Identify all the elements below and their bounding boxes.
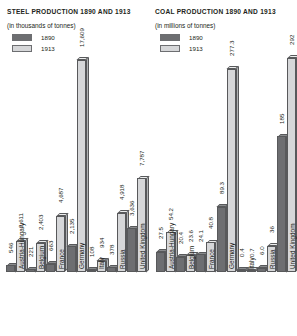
bar-germany-1913: [227, 69, 236, 272]
category-label: Austria-Hungary: [169, 222, 175, 268]
value-label: 3,636: [129, 200, 135, 215]
value-label: 89.3: [219, 182, 225, 194]
bar-face: [67, 246, 76, 272]
category-label: France: [59, 249, 65, 269]
category-label: Austria-Hungary: [19, 222, 25, 268]
category-label: Germany: [229, 242, 235, 268]
bar-face: [176, 257, 185, 272]
bar-germany-1890: [217, 207, 226, 272]
category-label: Russia: [120, 249, 126, 269]
bar-face: [156, 252, 165, 272]
category-label: France: [209, 249, 215, 269]
value-label: 7,787: [139, 150, 145, 165]
bar-russia-1890: [107, 267, 116, 272]
value-label: 54.2: [168, 208, 174, 220]
bar-face: [277, 136, 286, 272]
bar-face: [107, 267, 116, 272]
coal-production-panel: COAL PRODUCTION 1890 AND 1913 (in millio…: [148, 0, 297, 336]
plot-area-steel: 5462,611Austria-Hungary2212,403Belgium66…: [0, 0, 148, 336]
bar-side: [86, 57, 89, 272]
value-label: 23.6: [188, 230, 194, 242]
value-label: 20.4: [178, 232, 184, 244]
bar-austria-hungary-1890: [156, 252, 165, 272]
value-label: 663: [48, 241, 54, 251]
bar-side: [236, 66, 239, 272]
bar-belgium-1890: [176, 257, 185, 272]
category-label: Italy: [249, 257, 255, 269]
category-label: Italy: [99, 257, 105, 269]
category-label: Belgium: [189, 246, 195, 269]
value-label: 0.4: [239, 249, 245, 258]
bar-face: [6, 265, 15, 272]
bar-france-1890: [196, 254, 205, 272]
bar-face: [26, 269, 35, 272]
bar-group: 185292United Kingdom: [277, 271, 297, 272]
value-label: 378: [109, 244, 115, 254]
value-label: 4,918: [119, 185, 125, 200]
value-label: 292: [289, 35, 295, 45]
bar-face: [46, 264, 55, 272]
plot-area-coal: 27.554.2Austria-Hungary20.423.6Belgium24…: [148, 0, 297, 336]
bar-face: [196, 254, 205, 272]
category-label: United Kingdom: [140, 223, 146, 268]
value-label: 0.7: [249, 249, 255, 258]
value-label: 40.8: [208, 217, 214, 229]
value-label: 2,403: [38, 215, 44, 230]
value-label: 277.3: [229, 41, 235, 56]
value-label: 108: [89, 247, 95, 257]
bar-germany-1913: [77, 60, 86, 272]
bar-france-1890: [46, 264, 55, 272]
value-label: 221: [28, 246, 34, 256]
bar-belgium-1890: [26, 269, 35, 272]
bar-united-kingdom-1890: [127, 228, 136, 272]
chart-page: STEEL PRODUCTION 1890 AND 1913 (in thous…: [0, 0, 297, 336]
value-label: 27.5: [158, 227, 164, 239]
value-label: 17,609: [79, 28, 85, 47]
value-label: 6.0: [259, 246, 265, 255]
bar-face: [87, 270, 96, 272]
bar-austria-hungary-1890: [6, 265, 15, 272]
bar-face: [247, 270, 256, 272]
bar-italy-1913: [247, 270, 256, 272]
bar-russia-1890: [257, 268, 266, 272]
value-label: 546: [8, 242, 14, 252]
value-label: 2,135: [69, 218, 75, 233]
bar-italy-1890: [87, 270, 96, 272]
bar-face: [257, 268, 266, 272]
steel-production-panel: STEEL PRODUCTION 1890 AND 1913 (in thous…: [0, 0, 148, 336]
category-label: United Kingdom: [290, 223, 296, 268]
value-label: 934: [99, 238, 105, 248]
category-label: Russia: [270, 249, 276, 269]
category-label: Belgium: [39, 246, 45, 269]
bar-united-kingdom-1890: [277, 136, 286, 272]
value-label: 24.1: [198, 230, 204, 242]
bar-germany-1890: [67, 246, 76, 272]
bar-face: [77, 60, 86, 272]
bar-face: [127, 228, 136, 272]
value-label: 36: [269, 226, 275, 233]
value-label: 4,687: [58, 187, 64, 202]
value-label: 185: [279, 113, 285, 123]
category-label: Germany: [79, 242, 85, 268]
bar-face: [217, 207, 226, 272]
bar-face: [227, 69, 236, 272]
